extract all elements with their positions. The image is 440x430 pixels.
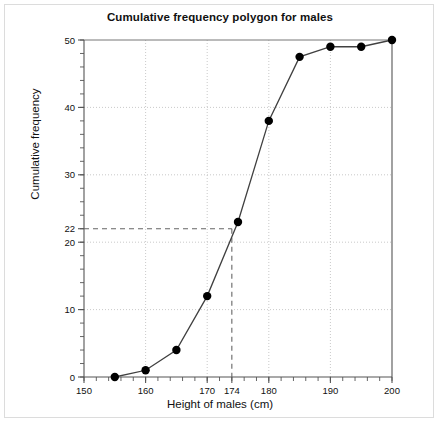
x-tick-label: 150	[76, 385, 92, 396]
data-polyline	[115, 40, 392, 377]
x-tick-label: 174	[224, 385, 240, 396]
x-tick-label: 170	[199, 385, 215, 396]
y-axis-minor-ticks	[80, 40, 84, 377]
x-axis-major-ticks	[84, 377, 392, 383]
data-point	[388, 36, 396, 44]
y-tick-label: 10	[64, 304, 75, 315]
vertical-gridlines	[146, 40, 331, 377]
cumulative-frequency-plot: 150160170174180190200 0102022304050	[0, 0, 440, 430]
data-point	[141, 366, 149, 374]
chart-figure: Cumulative frequency polygon for males C…	[0, 0, 440, 430]
data-point	[295, 53, 303, 61]
data-point	[357, 43, 365, 51]
y-axis-major-ticks	[78, 40, 84, 377]
x-tick-label: 190	[322, 385, 338, 396]
y-tick-label: 50	[64, 35, 75, 46]
data-point	[203, 292, 211, 300]
median-guide-lines	[84, 229, 232, 377]
horizontal-gridlines	[84, 40, 392, 310]
data-point	[234, 218, 242, 226]
y-tick-label: 20	[64, 237, 75, 248]
x-tick-label: 200	[384, 385, 400, 396]
y-tick-label: 40	[64, 102, 75, 113]
y-tick-label: 30	[64, 169, 75, 180]
data-point	[265, 117, 273, 125]
x-tick-label: 160	[138, 385, 154, 396]
data-point-markers	[111, 36, 397, 381]
data-point	[172, 346, 180, 354]
x-tick-label: 180	[261, 385, 277, 396]
x-axis-tick-labels: 150160170174180190200	[76, 385, 400, 396]
x-axis-minor-ticks	[84, 377, 392, 381]
y-tick-label: 0	[70, 372, 75, 383]
data-point	[111, 373, 119, 381]
y-tick-label: 22	[64, 223, 75, 234]
data-point	[326, 43, 334, 51]
y-axis-tick-labels: 0102022304050	[64, 35, 75, 383]
